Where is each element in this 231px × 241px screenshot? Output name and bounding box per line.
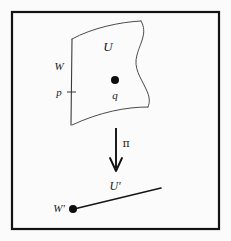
label-p: p: [55, 86, 62, 98]
fiber-line-W: [71, 39, 72, 125]
patch-right-wavy-edge: [136, 21, 149, 107]
label-W: W: [54, 60, 64, 72]
patch-top-edge: [72, 21, 141, 39]
label-W-prime: W': [53, 202, 65, 214]
projection-arrow: [110, 128, 122, 171]
point-q-dot: [111, 76, 119, 84]
diagram-canvas: U W p q π W' U': [0, 0, 231, 241]
label-pi: π: [122, 137, 129, 150]
figure-frame: [12, 12, 219, 229]
figure-container: U W p q π W' U': [0, 0, 231, 241]
label-U: U: [103, 39, 114, 54]
label-q: q: [112, 89, 118, 101]
curved-surface-patch: [67, 21, 149, 125]
patch-bottom-edge: [72, 107, 148, 125]
label-U-prime: U': [109, 179, 121, 193]
point-W-prime-dot: [69, 205, 77, 213]
